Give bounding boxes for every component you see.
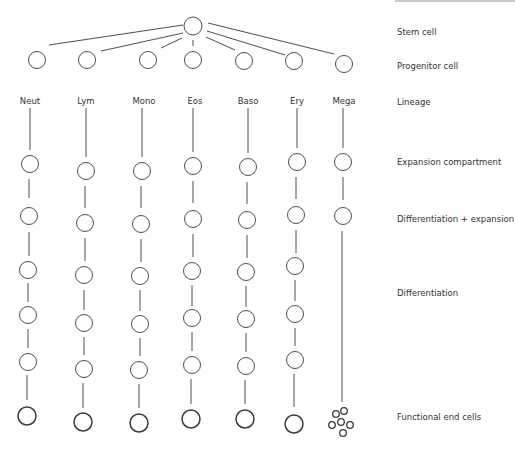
lineage-label-baso: Baso — [238, 96, 259, 106]
lineage-label-lym: Lym — [77, 96, 94, 106]
progenitor-mega — [336, 56, 353, 73]
column-eos — [182, 108, 202, 428]
stem-cell — [184, 17, 202, 35]
platelet-cluster — [329, 408, 354, 437]
column-mono — [130, 108, 151, 432]
progenitor-ery — [286, 53, 303, 70]
lineage-label-eos: Eos — [188, 96, 203, 106]
column-lym — [74, 108, 95, 431]
progenitor-lym — [79, 52, 96, 69]
lineage-label-mono: Mono — [132, 96, 155, 106]
progenitor-neut — [29, 52, 46, 69]
column-neut — [18, 108, 39, 425]
row-label-progenitor-cell: Progenitor cell — [397, 61, 458, 71]
lineage-label-mega: Mega — [332, 96, 355, 106]
lineage-label-neut: Neut — [20, 96, 40, 106]
progenitor-mono — [140, 52, 157, 69]
column-ery — [285, 108, 306, 433]
connector-stem-baso — [206, 37, 235, 50]
row-label-differentiation: Differentiation — [397, 288, 458, 298]
connector-stem-mono — [161, 38, 182, 48]
connector-stem-neut — [49, 25, 183, 45]
row-label-functional-end-cells: Functional end cells — [397, 412, 481, 422]
lineage-label-ery: Ery — [290, 96, 304, 106]
progenitor-baso — [236, 53, 253, 70]
column-baso — [236, 108, 257, 428]
row-label-expansion-compartment: Expansion compartment — [397, 157, 501, 167]
row-label-differentiation-expansion: Differentiation + expansion — [397, 214, 514, 224]
connector-stem-mega — [208, 23, 334, 54]
progenitor-eos — [185, 52, 202, 69]
row-label-stem-cell: Stem cell — [397, 27, 437, 37]
column-mega — [329, 108, 354, 436]
row-label-lineage: Lineage — [397, 97, 431, 107]
